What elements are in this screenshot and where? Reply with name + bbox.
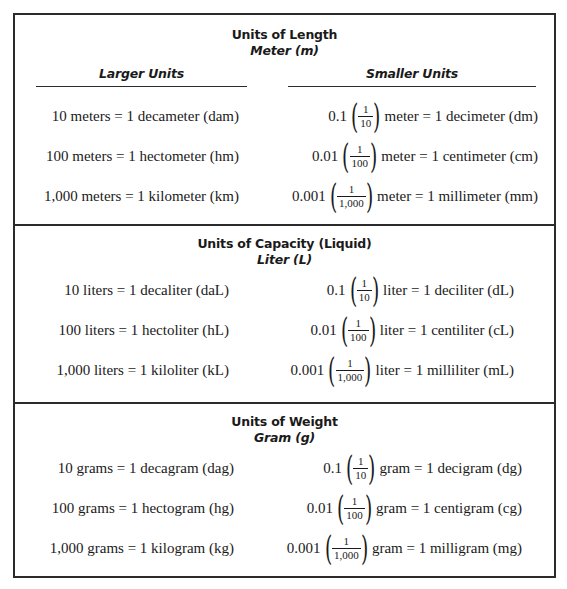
smaller-unit-equation: 0.01 ( 1100 ) liter = 1 centiliter (cL) [310,310,514,350]
fraction-denominator: 10 [358,116,373,130]
fraction-numerator: 1 [355,143,365,156]
table-row: 1,000 meters = 1 kilometer (km) 0.001 ( … [15,176,554,216]
section-capacity: Units of Capacity (Liquid) Liter (L) 10 … [15,226,554,402]
smaller-unit-text: gram = 1 milligram (mg) [372,540,522,557]
table-row: 100 meters = 1 hectometer (hm) 0.01 ( 11… [15,136,554,176]
right-paren: ) [361,528,368,568]
fraction: 110 [358,103,373,130]
fraction: 11,000 [336,357,365,384]
decimal-value: 0.01 [307,500,333,517]
left-paren: ( [351,96,358,136]
decimal-value: 0.1 [323,460,342,477]
larger-unit-equation: 100 grams = 1 hectogram (hg) [52,488,234,528]
smaller-unit-equation: 0.01 ( 1100 ) gram = 1 centigram (cg) [307,488,522,528]
smaller-unit-text: gram = 1 centigram (cg) [376,500,522,517]
fraction-denominator: 100 [348,330,369,344]
smaller-unit-equation: 0.001 ( 11,000 ) gram = 1 milligram (mg) [287,528,522,568]
larger-unit-equation: 10 meters = 1 decameter (dam) [52,96,239,136]
table-row: 10 liters = 1 decaliter (daL) 0.1 ( 110 … [15,270,554,310]
fraction-numerator: 1 [361,103,371,116]
fraction: 1100 [350,143,371,170]
table-row: 1,000 liters = 1 kiloliter (kL) 0.001 ( … [15,350,554,390]
left-paren: ( [337,488,344,528]
smaller-unit-text: meter = 1 decimeter (dm) [385,108,538,125]
column-rule-smaller [288,86,536,87]
table-row: 1,000 grams = 1 kilogram (kg) 0.001 ( 11… [15,528,554,568]
fraction-numerator: 1 [347,183,357,196]
smaller-unit-text: meter = 1 centimeter (cm) [381,148,538,165]
fraction-numerator: 1 [342,535,352,548]
right-paren: ) [364,350,371,390]
decimal-value: 0.01 [310,322,336,339]
fraction-denominator: 100 [344,508,365,522]
column-rule-larger [36,86,247,87]
larger-unit-equation: 10 liters = 1 decaliter (daL) [64,270,229,310]
fraction: 1100 [344,495,365,522]
fraction: 1100 [348,317,369,344]
fraction-numerator: 1 [345,357,355,370]
fraction-denominator: 1,000 [337,196,366,210]
column-header-larger: Larger Units [36,66,247,81]
left-paren: ( [350,270,357,310]
smaller-unit-equation: 0.1 ( 110 ) liter = 1 deciliter (dL) [327,270,514,310]
smaller-unit-equation: 0.01 ( 1100 ) meter = 1 centimeter (cm) [312,136,538,176]
larger-unit-equation: 1,000 meters = 1 kilometer (km) [44,176,239,216]
right-paren: ) [368,448,375,488]
left-paren: ( [342,136,349,176]
decimal-value: 0.001 [292,188,326,205]
right-paren: ) [366,176,373,216]
right-paren: ) [373,96,380,136]
fraction-numerator: 1 [350,495,360,508]
right-paren: ) [368,310,375,350]
decimal-value: 0.01 [312,148,338,165]
fraction-denominator: 100 [350,156,371,170]
smaller-unit-equation: 0.1 ( 110 ) meter = 1 decimeter (dm) [328,96,538,136]
right-paren: ) [365,488,372,528]
smaller-unit-text: meter = 1 millimeter (mm) [377,188,538,205]
decimal-value: 0.1 [327,282,346,299]
section-title: Units of Length [15,27,554,42]
fraction: 11,000 [337,183,366,210]
right-paren: ) [370,136,377,176]
fraction-numerator: 1 [356,455,366,468]
column-header-smaller: Smaller Units [288,66,536,81]
section-length: Units of Length Meter (m) Larger Units S… [15,15,554,224]
larger-unit-equation: 100 meters = 1 hectometer (hm) [46,136,239,176]
fraction-numerator: 1 [354,317,364,330]
fraction: 110 [353,455,368,482]
fraction-denominator: 10 [357,290,372,304]
left-paren: ( [325,528,332,568]
fraction: 11,000 [332,535,361,562]
left-paren: ( [341,310,348,350]
fraction-denominator: 1,000 [336,370,365,384]
larger-unit-equation: 1,000 liters = 1 kiloliter (kL) [56,350,229,390]
smaller-unit-text: liter = 1 milliliter (mL) [376,362,514,379]
table-row: 10 meters = 1 decameter (dam) 0.1 ( 110 … [15,96,554,136]
smaller-unit-text: gram = 1 decigram (dg) [379,460,522,477]
decimal-value: 0.001 [291,362,325,379]
smaller-unit-text: liter = 1 centiliter (cL) [380,322,514,339]
smaller-unit-equation: 0.1 ( 110 ) gram = 1 decigram (dg) [323,448,522,488]
table-row: 100 grams = 1 hectogram (hg) 0.01 ( 1100… [15,488,554,528]
smaller-unit-text: liter = 1 deciliter (dL) [383,282,514,299]
right-paren: ) [372,270,379,310]
larger-unit-equation: 1,000 grams = 1 kilogram (kg) [50,528,234,568]
fraction: 110 [357,277,372,304]
left-paren: ( [330,176,337,216]
fraction-numerator: 1 [360,277,370,290]
table-row: 100 liters = 1 hectoliter (hL) 0.01 ( 11… [15,310,554,350]
metric-units-table: Units of Length Meter (m) Larger Units S… [13,13,556,578]
base-unit: Gram (g) [15,430,554,445]
table-row: 10 grams = 1 decagram (dag) 0.1 ( 110 ) … [15,448,554,488]
smaller-unit-equation: 0.001 ( 11,000 ) liter = 1 milliliter (m… [291,350,514,390]
larger-unit-equation: 10 grams = 1 decagram (dag) [58,448,234,488]
base-unit: Meter (m) [15,43,554,58]
fraction-denominator: 10 [353,468,368,482]
section-title: Units of Weight [15,414,554,429]
fraction-denominator: 1,000 [332,548,361,562]
smaller-unit-equation: 0.001 ( 11,000 ) meter = 1 millimeter (m… [292,176,538,216]
decimal-value: 0.1 [328,108,347,125]
section-title: Units of Capacity (Liquid) [15,236,554,251]
larger-unit-equation: 100 liters = 1 hectoliter (hL) [59,310,230,350]
left-paren: ( [328,350,335,390]
